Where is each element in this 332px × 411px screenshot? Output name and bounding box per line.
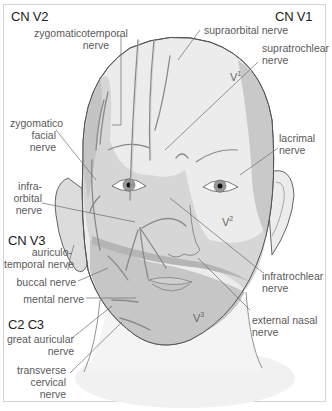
label-zygomaticotemporal-nerve: zygomaticotemporalnerve (34, 27, 109, 51)
label-buccal-nerve: buccal nerve (4, 276, 76, 288)
group-header-cn-v1: CN V1 (275, 9, 312, 24)
label-infraorbital-nerve: infra-orbitalnerve (6, 180, 42, 216)
group-header-cn-v2: CN V2 (11, 9, 48, 24)
zone-label-v1: V1 (230, 70, 241, 83)
label-zygomaticofacial-nerve: zygomaticofacialnerve (10, 117, 56, 153)
zone-label-v2: V2 (222, 215, 233, 228)
zone-label-v3: V3 (193, 311, 204, 324)
label-auriculotemporal-nerve: auriculo-temporal nerve (4, 246, 72, 270)
label-mental-nerve: mental nerve (4, 293, 84, 305)
label-great-auricular-nerve: great auricularnerve (4, 333, 74, 357)
label-lacrimal-nerve: lacrimalnerve (279, 132, 315, 156)
label-infratrochlear-nerve: infratrochlearnerve (262, 270, 323, 294)
label-external-nasal-nerve: external nasalnerve (252, 314, 317, 338)
label-supratrochlear-nerve: supratrochlearnerve (262, 42, 329, 66)
label-transverse-cervical-nerve: transversecervicalnerve (4, 364, 66, 400)
label-supraorbital-nerve: supraorbital nerve (204, 24, 288, 36)
group-header-c2-c3: C2 C3 (8, 317, 44, 332)
